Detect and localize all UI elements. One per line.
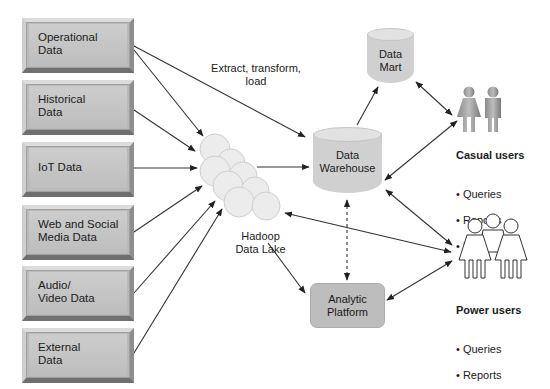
arrow-analytic-power xyxy=(387,261,452,300)
arrow-warehouse-to-mart xyxy=(357,87,378,125)
data-warehouse-label: Data Warehouse xyxy=(313,149,382,175)
data-warehouse-cylinder: Data Warehouse xyxy=(313,127,382,193)
source-label: External Data xyxy=(38,341,80,367)
arrow-operational-to-warehouse xyxy=(134,46,305,137)
arrow-historical-to-lake xyxy=(134,110,195,151)
arrow-operational-to-lake xyxy=(134,50,203,136)
source-historical-data: Historical Data xyxy=(22,80,134,135)
source-label: Audio/ Video Data xyxy=(38,279,95,305)
arrow-external-to-lake xyxy=(134,209,222,353)
power-users-group: Power users Queries Reports OLAP Data mi… xyxy=(456,291,522,389)
analytic-platform-box: Analytic Platform xyxy=(310,283,385,328)
power-users-icon xyxy=(455,212,531,284)
source-audio-video-data: Audio/ Video Data xyxy=(22,266,134,321)
casual-users-icon xyxy=(455,86,509,134)
arrow-warehouse-casual xyxy=(385,121,457,180)
source-operational-data: Operational Data xyxy=(22,18,134,73)
arrow-web-to-lake xyxy=(134,186,202,232)
data-mart-label: Data Mart xyxy=(367,48,414,74)
etl-label: Extract, transform, load xyxy=(208,62,304,88)
casual-users-title: Casual users xyxy=(456,149,524,162)
power-users-list: Queries Reports OLAP Data mining xyxy=(456,330,522,389)
arrow-lake-power xyxy=(285,213,451,252)
arrow-warehouse-power xyxy=(386,190,452,245)
source-label: Web and Social Media Data xyxy=(38,218,118,244)
arrow-mart-casual xyxy=(416,82,452,115)
list-item: Reports xyxy=(456,369,522,382)
power-users-title: Power users xyxy=(456,304,522,317)
source-web-social-data: Web and Social Media Data xyxy=(22,205,134,260)
source-label: Historical Data xyxy=(38,93,85,119)
data-lake-bubbles-icon xyxy=(195,128,295,228)
list-item: Queries xyxy=(456,343,522,356)
data-mart-cylinder: Data Mart xyxy=(367,28,414,83)
source-iot-data: IoT Data xyxy=(22,142,134,197)
source-external-data: External Data xyxy=(22,328,134,383)
source-label: IoT Data xyxy=(38,161,82,174)
list-item: Queries xyxy=(456,188,524,201)
source-label: Operational Data xyxy=(38,31,97,57)
data-lake-label: Hadoop Data Lake xyxy=(233,230,288,256)
